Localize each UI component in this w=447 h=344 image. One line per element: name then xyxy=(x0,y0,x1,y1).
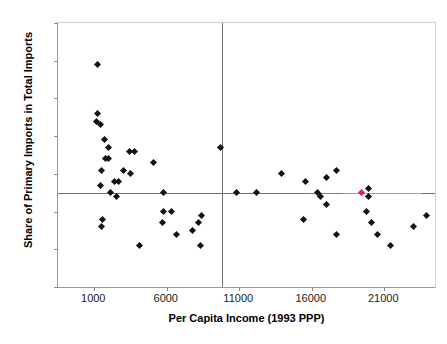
data-point-marker xyxy=(159,219,166,226)
data-point-marker xyxy=(333,167,340,174)
data-point-marker xyxy=(317,193,324,200)
y-tick-mark xyxy=(54,23,58,24)
x-axis-title: Per Capita Income (1993 PPP) xyxy=(57,312,436,324)
data-point-marker xyxy=(217,144,224,151)
data-point-marker xyxy=(233,189,240,196)
data-point-marker xyxy=(323,174,330,181)
x-axis-tick-labels: 10006000110001600021000 xyxy=(57,292,436,308)
data-point-marker xyxy=(97,121,104,128)
data-point-marker xyxy=(323,200,330,207)
data-point-marker xyxy=(99,216,106,223)
data-point-marker xyxy=(198,212,205,219)
data-point-marker xyxy=(131,148,138,155)
data-point-marker xyxy=(302,178,309,185)
x-tick-label: 6000 xyxy=(154,292,178,304)
data-point-marker xyxy=(136,242,143,249)
reference-line-segment xyxy=(306,193,341,194)
data-point-marker xyxy=(94,61,101,68)
x-tick-mark xyxy=(167,287,168,291)
x-tick-label: 11000 xyxy=(223,292,253,304)
y-tick-mark xyxy=(54,136,58,137)
data-point-marker xyxy=(365,185,372,192)
x-tick-label: 21000 xyxy=(368,292,399,304)
data-point-marker xyxy=(115,178,122,185)
data-point-marker xyxy=(278,170,285,177)
data-point-marker xyxy=(300,216,307,223)
x-tick-mark xyxy=(312,287,313,291)
data-point-marker xyxy=(423,212,430,219)
data-point-marker xyxy=(97,182,104,189)
reference-line-segment xyxy=(365,193,422,194)
y-axis-title: Share of Primary Imports in Total Import… xyxy=(22,7,34,273)
data-point-marker xyxy=(363,208,370,215)
data-point-marker xyxy=(189,227,196,234)
data-point-marker xyxy=(101,136,108,143)
data-point-marker xyxy=(197,242,204,249)
x-tick-label: 1000 xyxy=(81,292,105,304)
data-point-marker xyxy=(173,231,180,238)
y-tick-mark xyxy=(54,174,58,175)
x-tick-mark xyxy=(94,287,95,291)
y-tick-mark xyxy=(54,98,58,99)
data-point-marker xyxy=(333,231,340,238)
vertical-reference-line xyxy=(222,23,223,287)
y-tick-mark xyxy=(54,212,58,213)
data-point-marker xyxy=(373,231,380,238)
data-point-marker xyxy=(160,208,167,215)
x-tick-label: 16000 xyxy=(295,292,326,304)
data-point-marker xyxy=(160,189,167,196)
data-point-marker xyxy=(365,193,372,200)
data-point-marker xyxy=(387,242,394,249)
data-point-marker xyxy=(168,208,175,215)
data-point-marker xyxy=(368,219,375,226)
data-point-marker xyxy=(120,167,127,174)
data-point-marker xyxy=(98,223,105,230)
data-point-marker xyxy=(113,193,120,200)
data-point-marker xyxy=(195,219,202,226)
data-point-marker xyxy=(104,144,111,151)
data-point-marker xyxy=(94,110,101,117)
data-point-marker xyxy=(98,167,105,174)
x-tick-mark xyxy=(384,287,385,291)
data-point-marker xyxy=(253,189,260,196)
x-tick-mark xyxy=(239,287,240,291)
data-point-marker xyxy=(150,159,157,166)
plot-area xyxy=(57,22,436,288)
data-point-marker xyxy=(410,223,417,230)
y-tick-mark xyxy=(54,249,58,250)
data-point-marker xyxy=(127,170,134,177)
y-tick-mark xyxy=(54,287,58,288)
y-tick-mark xyxy=(54,61,58,62)
data-point-marker xyxy=(358,189,365,196)
scatter-chart-figure: 010203040506070 10006000110001600021000 … xyxy=(0,0,447,344)
